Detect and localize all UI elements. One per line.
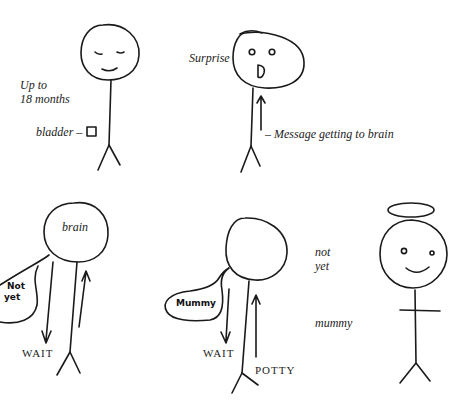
- halo-icon: [388, 203, 434, 217]
- down-arrow-icon: [42, 262, 53, 343]
- stick-figure-drawings: [0, 0, 473, 408]
- brain-label: brain: [62, 220, 88, 234]
- closed-eye-left-icon: [95, 52, 102, 54]
- smile-icon: [102, 68, 117, 71]
- eye-left-icon: [249, 49, 255, 55]
- potty-label: POTTY: [255, 364, 295, 376]
- not-label: not: [315, 245, 330, 259]
- closed-eye-right-icon: [117, 52, 124, 53]
- yet-label: yet: [315, 259, 329, 273]
- wait-label-left: WAIT: [22, 347, 54, 359]
- potty-training-diagram: Up to 18 months bladder – Surprise – Mes…: [0, 0, 473, 408]
- age-label-line1: Up to: [20, 78, 47, 92]
- angel-figure: [380, 203, 447, 383]
- smile-icon: [406, 267, 429, 272]
- surprise-figure: [233, 31, 304, 172]
- up-arrow-icon: [252, 295, 260, 357]
- baby-figure: [81, 25, 139, 170]
- eye-left-icon: [401, 248, 406, 253]
- up-arrow-icon: [79, 271, 90, 327]
- not-yet-bubble-line1: Not: [7, 281, 25, 291]
- eye-right-icon: [269, 49, 275, 55]
- message-to-brain-label: – Message getting to brain: [265, 127, 394, 141]
- not-yet-bubble-line2: yet: [4, 292, 20, 302]
- bladder-icon: [87, 127, 96, 136]
- surprise-label: Surprise: [189, 51, 230, 65]
- wait-label-right: WAIT: [203, 347, 235, 359]
- mummy-bubble-text: Mummy: [176, 298, 216, 308]
- bladder-label: bladder –: [36, 125, 82, 139]
- eye-right-icon: [430, 251, 434, 255]
- open-mouth-icon: [258, 65, 264, 78]
- up-arrow-icon: [257, 96, 265, 130]
- speech-bubble-icon: [165, 268, 229, 321]
- mummy-label: mummy: [315, 316, 352, 330]
- age-label-line2: 18 months: [20, 92, 70, 106]
